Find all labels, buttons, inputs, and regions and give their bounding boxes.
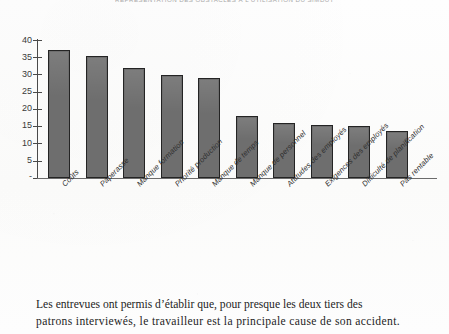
y-tick-label-25: 25 [10, 87, 32, 96]
y-tick-label-10: 10 [10, 139, 32, 148]
bar-series [37, 0, 437, 180]
y-tick-label-5: 5 [10, 156, 32, 165]
y-tick-label-20: 20 [10, 104, 32, 113]
x-axis-labels: Coûts Paperasse Manque formation Priorit… [0, 182, 449, 287]
y-tick-label-30: 30 [10, 70, 32, 79]
body-paragraph: Les entrevues ont permis d’établir que, … [36, 296, 428, 330]
y-tick-label-15: 15 [10, 121, 32, 130]
body-line-2: patrons interviewés, le travailleur est … [36, 313, 428, 330]
y-tick-label-35: 35 [10, 53, 32, 62]
y-tick-label-0: - [10, 172, 32, 181]
bar-couts [48, 50, 70, 178]
bar-chart: 40 35 30 25 20 15 10 5 - [0, 0, 449, 290]
y-tick-label-40: 40 [10, 36, 32, 45]
body-line-1: Les entrevues ont permis d’établir que, … [36, 296, 428, 313]
scanned-page: REPRÉSENTATION DES OBSTACLES À L'UTILISA… [0, 0, 449, 334]
bar-paperasse [86, 56, 108, 178]
